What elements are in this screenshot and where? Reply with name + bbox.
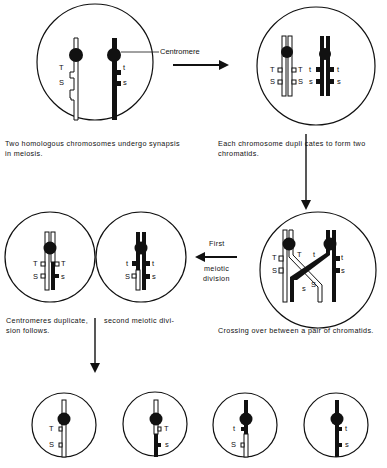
gene-label: t xyxy=(152,259,154,268)
gene-label: t xyxy=(126,259,128,268)
first-division-label: First xyxy=(209,239,225,249)
gamete-gene-label: S xyxy=(49,440,54,449)
gamete-gene-label: T xyxy=(49,424,54,433)
gene-label: t xyxy=(313,250,315,259)
gamete-gene-label: s xyxy=(345,440,349,449)
gene-label: T xyxy=(59,63,64,72)
caption-synapsis: Two homologous chromosomes undergo synap… xyxy=(5,139,195,159)
first-division-label: meiotic xyxy=(204,264,229,274)
chromatid-pair-black xyxy=(316,36,334,96)
gene-label: S xyxy=(125,272,130,281)
gamete-gene-label: S xyxy=(231,440,236,449)
caption-crossing-over: Crossing over between a pair of chromati… xyxy=(218,326,387,336)
gene-label: S xyxy=(59,78,64,87)
caption-duplication: Each chromosome dupli cates to form two … xyxy=(218,139,387,159)
gene-label: T xyxy=(272,253,277,262)
cell-synapsis xyxy=(37,4,153,120)
gamete-gene-label: T xyxy=(164,424,169,433)
cell-first-division-right xyxy=(96,212,186,302)
gene-label: t xyxy=(337,65,339,74)
centromere-label: Centromere xyxy=(160,47,200,56)
gamete-chromosome-Ts xyxy=(150,400,163,457)
gene-label: T xyxy=(298,65,303,74)
gene-label: T xyxy=(33,259,38,268)
arrow-right-icon xyxy=(173,60,229,70)
caption-second-division: Centromeres duplicate,second meiotic div… xyxy=(6,316,206,336)
arrow-left-icon xyxy=(195,252,237,262)
gene-label: t xyxy=(123,63,125,72)
chromosome-white xyxy=(69,38,83,120)
gene-label: s xyxy=(152,272,156,281)
gene-label: T xyxy=(297,250,302,259)
chromosome-right-recombinant xyxy=(132,232,150,290)
gene-label: t xyxy=(309,65,311,74)
gene-label: s xyxy=(302,284,306,293)
gene-label: S xyxy=(272,266,277,275)
gamete-chromosome-ts xyxy=(331,400,344,457)
gene-label: s xyxy=(123,78,127,87)
gamete-gene-label: t xyxy=(233,424,235,433)
gene-label: s xyxy=(337,77,341,86)
crossing-over-chromatids xyxy=(279,230,340,302)
chromatid-pair-white xyxy=(278,36,296,96)
gene-label: S xyxy=(311,280,316,289)
first-division-label: division xyxy=(203,274,230,284)
chromosome-black xyxy=(107,38,121,120)
gene-label: T xyxy=(61,259,66,268)
cell-crossing-over xyxy=(260,212,376,328)
gamete-chromosome-tS xyxy=(240,400,253,457)
gene-label: s xyxy=(341,266,345,275)
gene-label: S xyxy=(298,77,303,86)
gene-label: s xyxy=(309,77,313,86)
gene-label: S xyxy=(33,272,38,281)
gene-label: S xyxy=(270,77,275,86)
gene-label: T xyxy=(270,65,275,74)
gene-label: t xyxy=(341,253,343,262)
gamete-chromosome-TS xyxy=(58,400,71,457)
gamete-gene-label: t xyxy=(345,424,347,433)
cell-first-division-left xyxy=(5,212,95,302)
gamete-gene-label: s xyxy=(165,440,169,449)
gene-label: s xyxy=(61,272,65,281)
chromosome-left-recombinant xyxy=(41,232,59,290)
